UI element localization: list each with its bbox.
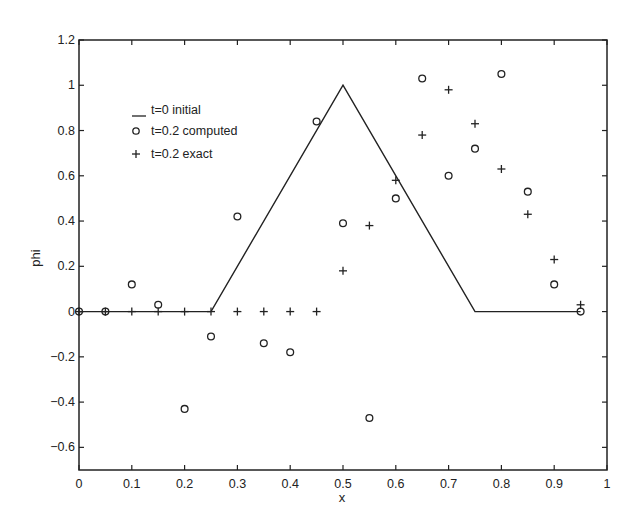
computed-point [155,301,162,308]
computed-point [419,75,426,82]
exact-point [392,176,400,184]
y-tick-label: 0.6 [58,169,75,183]
y-tick-label: 0.4 [58,214,75,228]
exact-point [418,131,426,139]
exact-point [233,308,241,316]
exact-point [128,308,136,316]
x-tick-label: 1 [604,477,611,491]
exact-point [550,256,558,264]
y-axis-label: phi [28,249,43,266]
x-tick-label: 0.5 [334,477,351,491]
computed-point [366,415,373,422]
computed-point [392,195,399,202]
computed-point [260,340,267,347]
legend: t=0 initial t=0.2 computed t=0.2 exact [132,103,238,161]
legend-item-computed: t=0.2 computed [151,124,238,138]
y-tick-label: −0.4 [50,395,75,409]
computed-point [208,333,215,340]
exact-point [313,308,321,316]
exact-point [471,120,479,128]
x-tick-label: 0.7 [440,477,457,491]
computed-point [498,71,505,78]
exact-point [524,210,532,218]
legend-plus-icon [132,150,140,158]
x-tick-label: 0 [76,477,83,491]
exact-point [181,308,189,316]
x-tick-label: 0.1 [123,477,140,491]
computed-point [181,405,188,412]
exact-point [365,222,373,230]
legend-circle-icon [133,128,139,134]
axis-ticks: 00.10.20.30.40.50.60.70.80.911.210.80.60… [50,33,610,491]
computed-point [524,188,531,195]
computed-point [313,118,320,125]
computed-point [340,220,347,227]
y-tick-label: 0.8 [58,124,75,138]
computed-point [234,213,241,220]
exact-point [260,308,268,316]
x-tick-label: 0.4 [282,477,299,491]
computed-point [472,145,479,152]
legend-item-exact: t=0.2 exact [151,147,213,161]
y-tick-label: −0.6 [50,440,75,454]
x-axis-label: x [339,490,346,505]
computed-point [551,281,558,288]
exact-point [577,301,585,309]
x-tick-label: 0.9 [546,477,563,491]
x-tick-label: 0.2 [176,477,193,491]
computed-point [445,172,452,179]
computed-point [128,281,135,288]
y-tick-label: 1.2 [58,33,75,47]
computed-point [287,349,294,356]
legend-item-initial: t=0 initial [151,103,201,117]
chart: 00.10.20.30.40.50.60.70.80.911.210.80.60… [0,0,638,526]
exact-point [207,308,215,316]
x-tick-label: 0.6 [387,477,404,491]
exact-point [339,267,347,275]
x-tick-label: 0.8 [493,477,510,491]
exact-point [445,86,453,94]
exact-point [154,308,162,316]
exact-point [497,165,505,173]
y-tick-label: 1 [68,78,75,92]
initial-line [79,85,581,311]
exact-point [286,308,294,316]
y-tick-label: −0.2 [50,350,75,364]
y-tick-label: 0.2 [58,259,75,273]
y-tick-label: 0 [68,305,75,319]
x-tick-label: 0.3 [229,477,246,491]
